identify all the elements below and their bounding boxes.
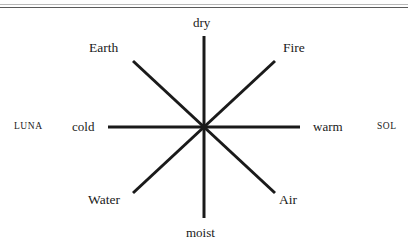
air-ray — [204, 127, 275, 193]
element-label-air: Air — [279, 193, 297, 207]
element-label-earth: Earth — [89, 41, 118, 55]
figure-root: dry moist cold warm Earth Fire Water Air… — [0, 0, 408, 250]
quality-label-cold: cold — [72, 120, 94, 133]
element-label-water: Water — [88, 193, 120, 207]
luminary-label-luna: LUNA — [14, 122, 43, 132]
quality-label-dry: dry — [193, 16, 210, 29]
water-ray — [133, 127, 204, 193]
quality-label-warm: warm — [313, 120, 343, 133]
quality-label-moist: moist — [186, 226, 215, 239]
element-label-fire: Fire — [283, 41, 305, 55]
luminary-label-sol: SOL — [377, 122, 397, 132]
fire-ray — [204, 61, 275, 127]
star-diagram — [0, 0, 408, 250]
earth-ray — [133, 61, 204, 127]
